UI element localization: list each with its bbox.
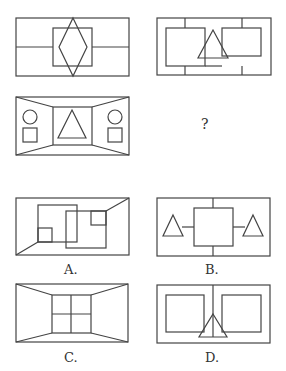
option-c-figure[interactable]: [16, 284, 128, 342]
option-b-label[interactable]: B.: [205, 262, 219, 277]
top-fragment: ': [140, 0, 144, 7]
option-c-label[interactable]: C.: [64, 350, 78, 365]
option-a-label[interactable]: A.: [64, 262, 78, 277]
option-d-figure[interactable]: [157, 285, 270, 343]
puzzle-canvas: [0, 0, 286, 371]
missing-figure-marker: ?: [201, 116, 209, 132]
figure-2: [157, 18, 271, 75]
option-d-label[interactable]: D.: [205, 350, 219, 365]
figure-1: [16, 18, 129, 76]
figure-3: [16, 97, 129, 155]
option-b-figure[interactable]: [157, 198, 270, 256]
option-a-figure[interactable]: [16, 198, 129, 255]
